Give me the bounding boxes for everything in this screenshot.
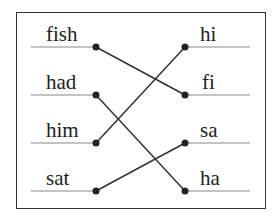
word-right-1: hi: [200, 24, 216, 45]
word-left-2: had: [46, 72, 76, 93]
dot-fi: [182, 92, 189, 99]
connector-fish-fi: [96, 47, 185, 95]
dot-hi: [182, 44, 189, 51]
dot-had: [93, 92, 100, 99]
connector-him-hi: [96, 47, 185, 143]
dot-fish: [93, 44, 100, 51]
connector-had-ha: [96, 95, 185, 191]
word-right-3: sa: [200, 120, 218, 141]
dot-sat: [93, 188, 100, 195]
word-left-4: sat: [46, 168, 69, 189]
word-right-2: fi: [202, 72, 215, 93]
connection-lines: [0, 0, 280, 219]
connector-sat-sa: [96, 143, 185, 191]
dot-him: [93, 140, 100, 147]
word-left-1: fish: [46, 24, 78, 45]
dot-sa: [182, 140, 189, 147]
word-left-3: him: [46, 120, 79, 141]
word-right-4: ha: [200, 168, 220, 189]
dot-ha: [182, 188, 189, 195]
